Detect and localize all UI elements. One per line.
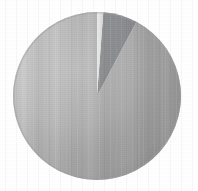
pie-chart-svg: [0, 0, 198, 191]
pie-chart-figure: [0, 0, 198, 191]
